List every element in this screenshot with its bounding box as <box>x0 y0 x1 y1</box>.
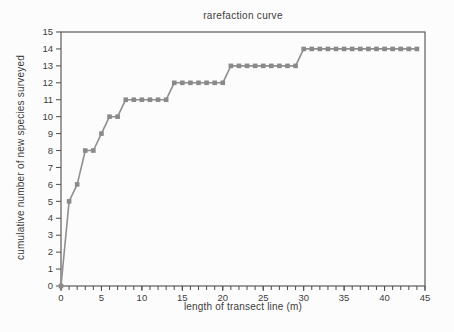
data-point-marker <box>220 81 225 86</box>
y-tick-label: 3 <box>48 229 53 240</box>
data-point-marker <box>318 47 323 52</box>
data-point-marker <box>261 64 266 69</box>
data-point-marker <box>407 47 412 52</box>
data-point-marker <box>140 97 145 102</box>
y-tick-label: 15 <box>42 26 53 37</box>
y-tick-label: 9 <box>48 128 53 139</box>
y-tick-label: 8 <box>48 145 53 156</box>
data-point-marker <box>148 97 153 102</box>
x-axis-label: length of transect line (m) <box>61 301 425 312</box>
data-point-marker <box>132 97 137 102</box>
data-point-marker <box>188 81 193 86</box>
data-point-marker <box>115 114 120 119</box>
y-tick-label: 4 <box>48 212 53 223</box>
data-point-marker <box>212 81 217 86</box>
data-point-marker <box>301 47 306 52</box>
data-point-marker <box>390 47 395 52</box>
data-point-marker <box>172 81 177 86</box>
data-point-marker <box>204 81 209 86</box>
data-point-marker <box>415 47 420 52</box>
data-point-marker <box>67 199 72 204</box>
data-point-marker <box>350 47 355 52</box>
data-point-marker <box>237 64 242 69</box>
y-tick-label: 0 <box>48 280 53 291</box>
data-point-marker <box>293 64 298 69</box>
data-point-marker <box>156 97 161 102</box>
y-tick-label: 13 <box>42 60 53 71</box>
data-point-marker <box>107 114 112 119</box>
data-point-marker <box>164 97 169 102</box>
series-line <box>61 49 417 286</box>
y-tick-label: 10 <box>42 111 53 122</box>
y-tick-label: 5 <box>48 196 53 207</box>
y-tick-label: 1 <box>48 263 53 274</box>
data-point-marker <box>398 47 403 52</box>
data-point-marker <box>334 47 339 52</box>
y-tick-label: 7 <box>48 162 53 173</box>
data-point-marker <box>382 47 387 52</box>
data-point-marker <box>358 47 363 52</box>
data-point-marker <box>269 64 274 69</box>
data-point-marker <box>277 64 282 69</box>
plot-area: 0123456789101112131415051015202530354045 <box>0 0 454 332</box>
data-point-marker <box>253 64 258 69</box>
data-point-marker <box>99 131 104 136</box>
data-point-marker <box>123 97 128 102</box>
data-point-marker <box>59 284 64 289</box>
data-point-marker <box>342 47 347 52</box>
y-tick-label: 2 <box>48 246 53 257</box>
data-point-marker <box>196 81 201 86</box>
data-point-marker <box>326 47 331 52</box>
y-tick-label: 11 <box>43 94 53 105</box>
y-tick-label: 12 <box>42 77 53 88</box>
data-point-marker <box>309 47 314 52</box>
data-point-marker <box>75 182 80 187</box>
data-point-marker <box>229 64 234 69</box>
data-point-marker <box>374 47 379 52</box>
y-tick-label: 6 <box>48 179 53 190</box>
rarefaction-curve-figure: rarefaction curve cumulative number of n… <box>0 0 454 332</box>
data-point-marker <box>180 81 185 86</box>
data-point-marker <box>83 148 88 153</box>
y-tick-label: 14 <box>42 43 53 54</box>
data-point-marker <box>245 64 250 69</box>
plot-frame <box>61 32 425 286</box>
data-point-marker <box>285 64 290 69</box>
data-point-marker <box>366 47 371 52</box>
data-point-marker <box>91 148 96 153</box>
